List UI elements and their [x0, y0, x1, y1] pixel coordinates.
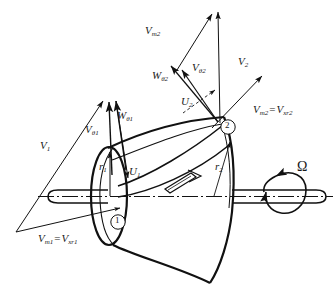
label-U1: U1: [129, 166, 140, 179]
label-r2: r2: [215, 161, 223, 174]
label-omega: Ω: [297, 160, 307, 174]
inlet-velocity-triangle: [16, 101, 128, 232]
label-Vm2-upper: Vm2: [145, 25, 160, 38]
hub-lower-contour-2: [210, 212, 232, 283]
label-station-2: 2: [225, 121, 230, 130]
label-Vm2-equals-Vxr2: Vm2=Vxr2: [253, 104, 293, 117]
hub-lower-contour: [113, 245, 210, 283]
label-Wtheta1: Wθ1: [117, 110, 133, 123]
label-V2: V2: [238, 56, 248, 69]
vector-V1: [16, 101, 103, 232]
label-Vtheta2: Vθ2: [192, 62, 206, 75]
rotation-arrow: [264, 173, 306, 213]
label-Wtheta2: Wθ2: [152, 70, 168, 83]
vector-V2: [218, 12, 220, 123]
label-Vm1-equals-Vxr1: Vm1=Vxr1: [38, 233, 78, 246]
label-U2: U2: [181, 96, 192, 109]
label-station-1: 1: [115, 216, 120, 225]
impeller-body: [38, 117, 333, 283]
figure-canvas: V1 Vθ1 Wθ1 r1 U1 Vm1=Vxr1 Vm2 V2 Wθ2 Vθ2…: [0, 0, 333, 305]
label-r1: r1: [99, 161, 107, 174]
label-V1: V1: [40, 140, 50, 153]
shroud-inner-contour: [112, 124, 222, 160]
label-Vtheta1: Vθ1: [85, 124, 99, 137]
